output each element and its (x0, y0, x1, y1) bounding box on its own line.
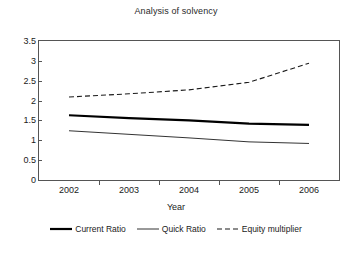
y-tick-label: 1.5 (2, 115, 36, 125)
y-tick-label: 0 (2, 175, 36, 185)
y-tick-label: 3 (2, 56, 36, 66)
y-axis: 00.511.522.533.5 (0, 0, 36, 256)
y-tick-mark (38, 101, 42, 102)
x-axis-title: Year (0, 202, 352, 212)
legend-line-icon (137, 225, 159, 233)
legend-item[interactable]: Quick Ratio (137, 225, 206, 234)
y-tick-mark (38, 81, 42, 82)
y-tick-mark (38, 120, 42, 121)
legend-label: Equity multiplier (242, 225, 302, 234)
y-tick-mark (38, 140, 42, 141)
legend-line-icon (217, 225, 239, 233)
chart-legend: Current RatioQuick RatioEquity multiplie… (0, 225, 352, 234)
series-line (69, 63, 309, 97)
x-tick-label: 2002 (39, 185, 99, 195)
legend-line-icon (50, 225, 72, 233)
x-tick-label: 2004 (159, 185, 219, 195)
legend-label: Quick Ratio (162, 225, 206, 234)
legend-item[interactable]: Equity multiplier (217, 225, 302, 234)
chart-title: Analysis of solvency (0, 6, 352, 16)
series-lines (39, 41, 339, 180)
chart-container: Analysis of solvency 00.511.522.533.5 20… (0, 0, 352, 256)
plot-area (38, 40, 340, 181)
x-tick-label: 2003 (99, 185, 159, 195)
x-tick-label: 2006 (279, 185, 339, 195)
y-tick-label: 1 (2, 135, 36, 145)
y-tick-label: 2 (2, 96, 36, 106)
legend-item[interactable]: Current Ratio (50, 225, 126, 234)
series-line (69, 115, 309, 125)
y-tick-label: 3.5 (2, 36, 36, 46)
y-tick-label: 0.5 (2, 155, 36, 165)
x-tick-label: 2005 (219, 185, 279, 195)
y-tick-label: 2.5 (2, 76, 36, 86)
series-line (69, 131, 309, 144)
legend-label: Current Ratio (75, 225, 126, 234)
y-tick-mark (38, 160, 42, 161)
y-tick-mark (38, 61, 42, 62)
